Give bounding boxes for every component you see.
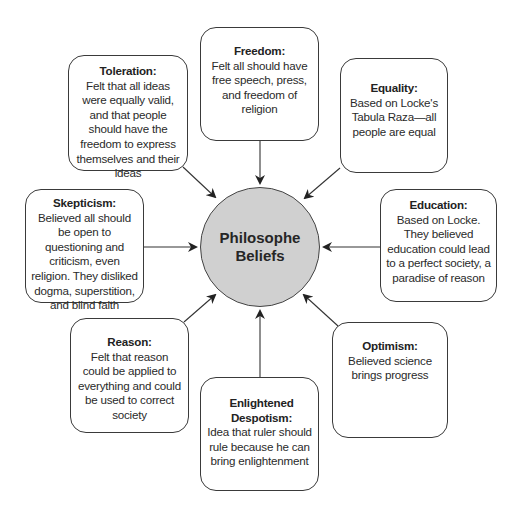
node-toleration: Toleration: Felt that all ideas were equ… (68, 55, 188, 171)
node-description: Based on Locke. They believed education … (386, 213, 491, 286)
node-description: Idea that ruler should rule because he c… (205, 425, 314, 469)
node-education: Education: Based on Locke. They believed… (380, 189, 497, 302)
center-title-line2: Beliefs (220, 247, 301, 265)
arrow-toleration (183, 167, 215, 197)
node-description: Felt all should have free speech, press,… (206, 59, 313, 117)
node-enlightened-despotism: Enlightened Despotism: Idea that ruler s… (200, 377, 319, 491)
node-description: Felt that reason could be applied to eve… (76, 350, 183, 423)
node-title: Freedom: (206, 44, 313, 59)
center-node-philosophe-beliefs: Philosophe Beliefs (200, 187, 320, 307)
node-description: Felt that all ideas were equally valid, … (74, 79, 182, 181)
node-title: Enlightened Despotism: (215, 396, 308, 425)
node-equality: Equality: Based on Locke's Tabula Raza—a… (340, 58, 448, 173)
arrow-optimism (304, 295, 338, 326)
node-description: Believed science brings progress (338, 354, 442, 383)
node-description: Believed all should be open to questioni… (31, 211, 138, 313)
node-title: Reason: (76, 335, 183, 350)
node-freedom: Freedom: Felt all should have free speec… (200, 27, 319, 141)
node-optimism: Optimism: Believed science brings progre… (332, 322, 448, 438)
node-title: Equality: (346, 81, 442, 96)
node-title: Education: (386, 198, 491, 213)
center-title-line1: Philosophe (220, 229, 301, 247)
node-title: Skepticism: (31, 196, 138, 211)
node-title: Optimism: (338, 339, 442, 354)
arrow-equality (305, 168, 340, 198)
node-reason: Reason: Felt that reason could be applie… (70, 318, 189, 433)
node-skepticism: Skepticism: Believed all should be open … (25, 189, 144, 303)
concept-web-diagram: Philosophe Beliefs Toleration: Felt that… (0, 0, 522, 520)
node-title: Toleration: (74, 64, 182, 79)
arrow-reason (184, 295, 215, 322)
node-description: Based on Locke's Tabula Raza—all people … (346, 96, 442, 140)
